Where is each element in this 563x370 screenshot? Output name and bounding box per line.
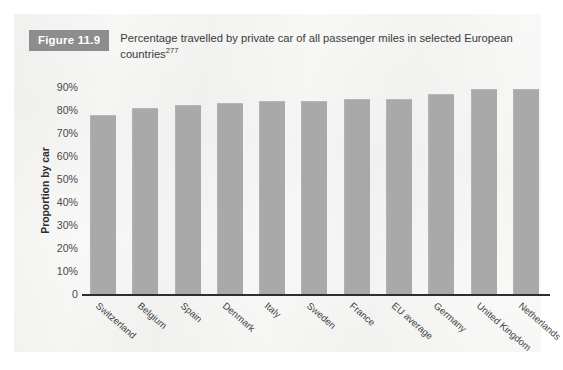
figure-caption: Percentage travelled by private car of a… xyxy=(120,30,527,63)
x-axis-category-label: Netherlands xyxy=(517,300,563,342)
bar-slot xyxy=(209,87,251,294)
x-axis-category-label: Spain xyxy=(178,300,204,324)
bar[interactable] xyxy=(217,103,243,294)
bar-slot xyxy=(293,87,335,294)
figure-panel: Figure 11.9 Percentage travelled by priv… xyxy=(14,14,541,352)
bar-slot xyxy=(378,87,420,294)
figure-number-badge: Figure 11.9 xyxy=(29,30,109,51)
bar-slot xyxy=(124,87,166,294)
bar[interactable] xyxy=(301,101,327,294)
x-label-slot: Denmark xyxy=(209,296,251,358)
bar-slot xyxy=(167,87,209,294)
bar[interactable] xyxy=(132,108,158,294)
x-axis-category-labels: SwitzerlandBelgiumSpainDenmarkItalySwede… xyxy=(82,296,547,358)
bar-slot xyxy=(462,87,504,294)
bar-slot xyxy=(336,87,378,294)
x-axis-category-label: Sweden xyxy=(305,300,338,331)
y-axis-tick-label: 0 xyxy=(44,288,78,300)
bar[interactable] xyxy=(513,89,539,294)
x-label-slot: Switzerland xyxy=(82,296,124,358)
figure-caption-text: Percentage travelled by private car of a… xyxy=(120,32,512,60)
x-axis-category-label: Italy xyxy=(263,300,284,320)
x-label-slot: United Kingdom xyxy=(462,296,504,358)
bar[interactable] xyxy=(471,89,497,294)
x-label-slot: Spain xyxy=(167,296,209,358)
y-axis-tick-label: 60% xyxy=(44,150,78,162)
bar-slot xyxy=(251,87,293,294)
x-label-slot: Netherlands xyxy=(505,296,547,358)
y-axis-tick-label: 10% xyxy=(44,265,78,277)
bar-series xyxy=(82,87,547,294)
bar-slot xyxy=(420,87,462,294)
figure-header: Figure 11.9 Percentage travelled by priv… xyxy=(29,30,527,63)
y-axis-tick-label: 20% xyxy=(44,242,78,254)
bar-slot xyxy=(505,87,547,294)
bar[interactable] xyxy=(175,105,201,294)
y-axis-tick-label: 30% xyxy=(44,219,78,231)
x-label-slot: Sweden xyxy=(293,296,335,358)
plot-area xyxy=(82,87,547,294)
x-axis-category-label: France xyxy=(348,300,378,328)
bar-slot xyxy=(82,87,124,294)
bar[interactable] xyxy=(259,101,285,294)
bar[interactable] xyxy=(90,115,116,294)
figure-caption-reference: 277 xyxy=(166,46,179,55)
y-axis-tick-label: 90% xyxy=(44,81,78,93)
x-label-slot: Italy xyxy=(251,296,293,358)
y-axis-tick-label: 50% xyxy=(44,173,78,185)
x-label-slot: Belgium xyxy=(124,296,166,358)
x-label-slot: EU average xyxy=(378,296,420,358)
bar[interactable] xyxy=(344,99,370,295)
y-axis-tick-label: 80% xyxy=(44,104,78,116)
bar[interactable] xyxy=(428,94,454,294)
bar[interactable] xyxy=(386,99,412,295)
y-axis-tick-labels: 90%80%70%60%50%40%30%20%10%0 xyxy=(44,87,78,294)
x-label-slot: Germany xyxy=(420,296,462,358)
y-axis-tick-label: 40% xyxy=(44,196,78,208)
y-axis-tick-label: 70% xyxy=(44,127,78,139)
x-axis-category-label: Belgium xyxy=(136,300,169,331)
x-label-slot: France xyxy=(336,296,378,358)
